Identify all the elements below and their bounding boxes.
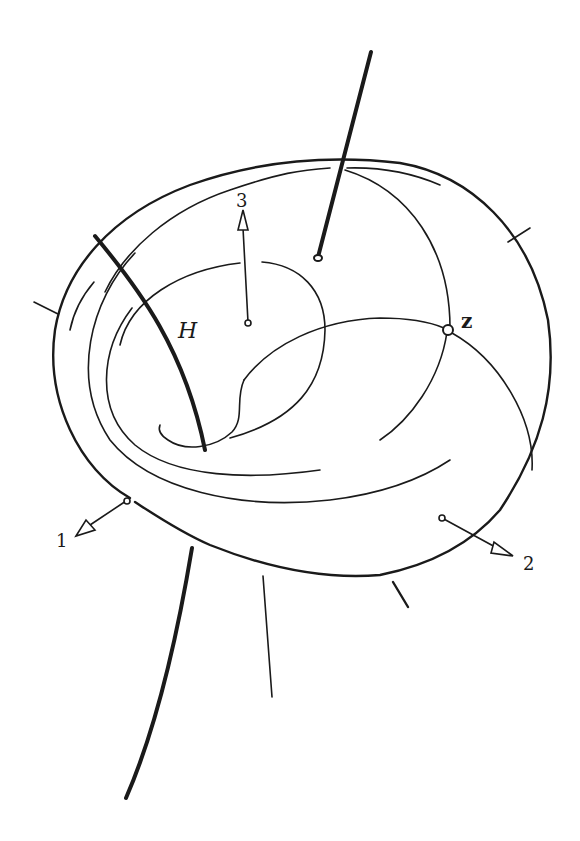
arrow-3: 3 (236, 190, 251, 326)
label-2: 2 (523, 553, 534, 574)
label-3: 3 (236, 190, 247, 211)
arrowhead-3 (238, 210, 248, 230)
label-1: 1 (56, 530, 67, 551)
label-z: z (461, 309, 472, 333)
rod-end-point (314, 255, 322, 261)
inner-loops (88, 253, 450, 503)
point-z-marker (443, 325, 453, 335)
bottom-normal-line (263, 576, 272, 697)
arrowhead-1 (76, 520, 95, 536)
bottom-rod (126, 548, 192, 798)
point-z: z (443, 309, 472, 335)
outer-rim (53, 159, 550, 575)
label-h: H (177, 318, 198, 343)
tick-bottom (393, 582, 408, 607)
arrow-1: 1 (56, 498, 130, 551)
arrow-2-base-point (439, 515, 445, 521)
meridians (159, 170, 532, 470)
arrowhead-2 (491, 542, 513, 556)
curve-h (95, 236, 205, 450)
top-rod (314, 52, 371, 261)
tick-left (34, 302, 58, 314)
arrow-3-base-point (245, 320, 251, 326)
surface-diagram: 3 1 2 z H (0, 0, 580, 841)
arrow-1-base-point (124, 498, 130, 504)
